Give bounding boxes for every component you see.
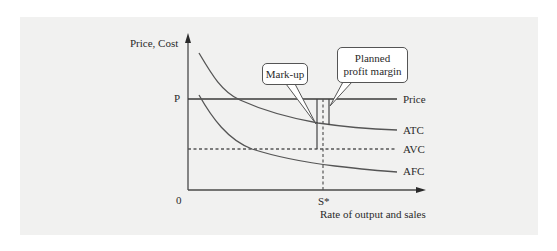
origin-label: 0 — [176, 195, 182, 206]
profit-margin-callout: Planned profit margin — [337, 47, 408, 83]
x-axis-label: Rate of output and sales — [320, 209, 426, 220]
curve-label-price: Price — [403, 94, 426, 105]
profit-callout-tail — [330, 82, 352, 106]
markup-callout-text: Mark-up — [266, 68, 305, 80]
cost-curves-diagram — [0, 0, 557, 251]
curve-label-atc: ATC — [403, 125, 424, 136]
curve-label-avc: AVC — [403, 144, 425, 155]
markup-callout-tail — [286, 84, 316, 124]
curve-label-afc: AFC — [403, 166, 424, 177]
price-level-label: P — [174, 93, 180, 104]
markup-callout: Mark-up — [262, 63, 308, 85]
y-axis-arrow-icon — [185, 33, 191, 43]
x-axis-arrow-icon — [416, 187, 426, 193]
y-axis-label: Price, Cost — [130, 38, 178, 49]
output-label: S* — [318, 196, 330, 207]
profit-callout-line2: profit margin — [338, 65, 407, 78]
profit-callout-line1: Planned — [338, 52, 407, 65]
afc-curve — [199, 95, 397, 172]
